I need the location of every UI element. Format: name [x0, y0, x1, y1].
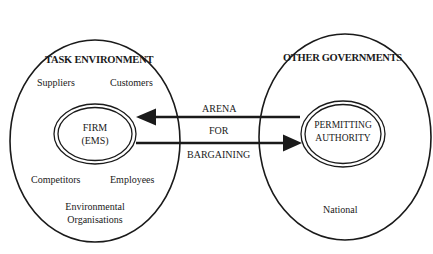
firm-label-line1: FIRM — [70, 123, 120, 133]
environmental-organisations-label: Environmental Organisations — [55, 202, 135, 225]
permitting-authority-label: PERMITTING AUTHORITY — [305, 121, 381, 143]
national-label: National — [323, 205, 357, 215]
permitting-authority-line2: AUTHORITY — [305, 134, 381, 144]
suppliers-label: Suppliers — [37, 78, 75, 88]
for-label: FOR — [209, 126, 228, 136]
permitting-authority-line1: PERMITTING — [305, 121, 381, 131]
task-environment-title: TASK ENVIRONMENT — [45, 55, 153, 66]
bargaining-label: BARGAINING — [187, 150, 250, 160]
employees-label: Employees — [110, 175, 154, 185]
competitors-label: Competitors — [31, 175, 80, 185]
firm-label-line2: (EMS) — [70, 136, 120, 146]
firm-label: FIRM (EMS) — [70, 123, 120, 146]
env-org-line2: Organisations — [55, 215, 135, 225]
customers-label: Customers — [110, 78, 153, 88]
other-governments-title: OTHER GOVERNMENTS — [283, 53, 402, 64]
env-org-line1: Environmental — [55, 202, 135, 212]
arena-label: ARENA — [202, 104, 236, 114]
